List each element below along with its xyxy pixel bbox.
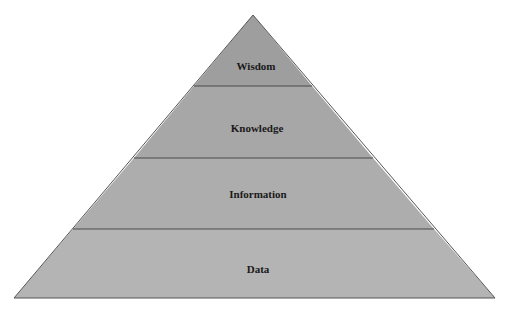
tier-label-information: Information bbox=[229, 188, 286, 200]
tier-label-knowledge: Knowledge bbox=[231, 122, 284, 134]
pyramid-diagram: Wisdom Knowledge Information Data bbox=[0, 0, 507, 309]
tier-wisdom bbox=[194, 15, 312, 86]
tier-label-wisdom: Wisdom bbox=[237, 60, 276, 72]
tier-label-data: Data bbox=[247, 263, 270, 275]
